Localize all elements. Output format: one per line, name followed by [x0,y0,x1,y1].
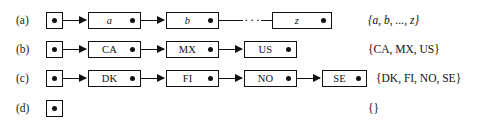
row-c-arrow-3 [219,78,242,80]
node-label: a [93,15,126,26]
pointer-dot [321,18,326,23]
pointer-dot [130,47,135,52]
pointer-dot [130,76,135,81]
pointer-dot [286,47,291,52]
row-b-node-mx: MX [166,41,219,58]
row-b-arrow-3 [219,49,242,51]
row-a-node-z: z [272,12,332,29]
row-c-node-se: SE [322,70,367,87]
row-a-node-a: a [88,12,141,29]
linked-list-figure: (a) a b ··· z {a, b, ..., z} (b) CA MX U… [0,0,479,132]
node-label: FI [171,73,204,84]
pointer-dot [52,47,57,52]
row-a-node-b: b [166,12,219,29]
node-label: MX [171,44,204,55]
row-c-node-fi: FI [166,70,219,87]
node-label: b [171,15,204,26]
node-label: DK [93,73,126,84]
row-b-arrow-2 [141,49,164,51]
row-b-set-notation: {CA, MX, US} [368,42,440,56]
pointer-dot [52,18,57,23]
row-label-d: (d) [16,101,42,115]
pointer-dot [356,76,361,81]
row-b-head-node [46,41,63,58]
row-label-b: (b) [16,42,42,56]
row-a-arrow-3-segment [219,20,243,22]
node-label: US [249,44,282,55]
row-a-arrow-1 [63,20,86,22]
pointer-dot [208,47,213,52]
row-c-set-notation: {DK, FI, NO, SE} [376,71,461,85]
row-a-head-node [46,12,63,29]
row-c-arrow-2 [141,78,164,80]
pointer-dot [52,106,57,111]
row-c-node-dk: DK [88,70,141,87]
row-d-set-notation: {} [368,101,379,115]
row-b-node-ca: CA [88,41,141,58]
pointer-dot [208,18,213,23]
row-c-head-node [46,70,63,87]
node-label: CA [93,44,126,55]
row-c-arrow-4 [297,78,320,80]
row-b-node-us: US [244,41,297,58]
row-a-set-notation: {a, b, ..., z} [368,13,419,27]
row-d-head-node [46,100,63,117]
pointer-dot [130,18,135,23]
row-a-arrow-2 [141,20,164,22]
row-b-arrow-1 [63,49,86,51]
node-label: SE [327,73,352,84]
row-c-arrow-1 [63,78,86,80]
node-label: z [277,15,317,26]
row-label-c: (c) [16,71,42,85]
node-label: NO [249,73,282,84]
row-label-a: (a) [16,13,42,27]
row-c-node-no: NO [244,70,297,87]
pointer-dot [208,76,213,81]
pointer-dot [52,76,57,81]
row-a-ellipsis: ··· [244,17,262,23]
pointer-dot [286,76,291,81]
